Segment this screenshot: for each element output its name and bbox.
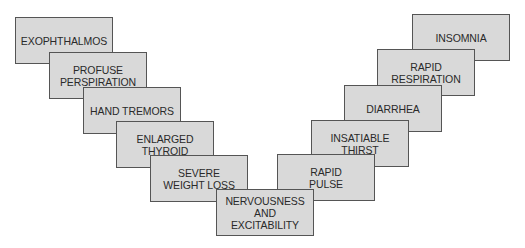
symptom-box-nervousness-and-excitability: NERVOUSNESS AND EXCITABILITY: [216, 189, 314, 236]
